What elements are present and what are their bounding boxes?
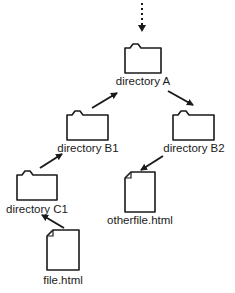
dotted-parent-arrow xyxy=(138,3,146,32)
arrow-file-to-c1 xyxy=(42,215,64,228)
file-icon-file[interactable] xyxy=(47,230,79,270)
label-directory-b2: directory B2 xyxy=(163,143,224,155)
arrow-a-to-b2 xyxy=(168,91,193,105)
folder-icon-directory-b2[interactable] xyxy=(173,111,214,140)
label-directory-b1: directory B1 xyxy=(57,143,118,155)
label-file: file.html xyxy=(43,275,83,287)
label-directory-c1: directory C1 xyxy=(6,204,68,216)
folder-icon-directory-c1[interactable] xyxy=(17,171,57,200)
file-icon-otherfile[interactable] xyxy=(125,172,155,212)
arrow-b1-to-a xyxy=(92,93,117,108)
arrow-c1-to-b1 xyxy=(40,154,62,168)
folder-icon-directory-a[interactable] xyxy=(125,44,161,73)
folder-icon-directory-b1[interactable] xyxy=(67,111,108,140)
label-directory-a: directory A xyxy=(116,76,170,88)
directory-tree-diagram: directory A directory B1 directory B2 di… xyxy=(0,0,235,293)
arrow-b2-to-otherfile xyxy=(141,156,163,170)
label-otherfile: otherfile.html xyxy=(107,215,173,227)
